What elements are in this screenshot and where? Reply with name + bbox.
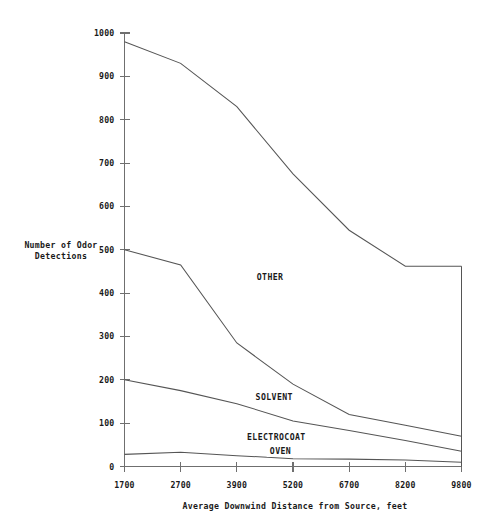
y-axis-tick-label: 400 [99, 288, 114, 298]
series-label-oven: OVEN [270, 446, 291, 456]
x-axis-tick-label: 1700 [114, 480, 135, 490]
y-axis-tick-label: 500 [99, 245, 114, 255]
y-axis-tick-label: 600 [99, 201, 114, 211]
y-axis-tick-label: 100 [99, 418, 114, 428]
y-axis-title-line-1: Number of Odor [24, 240, 97, 250]
x-axis-tick-label: 3900 [227, 480, 248, 490]
x-axis-tick-label: 5200 [283, 480, 304, 490]
y-axis-group: 01002003004005006007008009001000 [94, 28, 130, 472]
series-line-other [125, 42, 462, 267]
x-axis-title: Average Downwind Distance from Source, f… [183, 501, 408, 511]
series-labels-group: OTHERSOLVENTELECTROCOATOVEN [244, 272, 309, 457]
y-axis-tick-label: 0 [109, 462, 114, 472]
x-axis-tick-label: 9800 [451, 480, 472, 490]
series-label-other: OTHER [257, 272, 284, 282]
y-axis-tick-label: 1000 [94, 28, 115, 38]
x-axis-tick-label: 2700 [170, 480, 191, 490]
x-axis-tick-label: 6700 [339, 480, 360, 490]
y-axis-tick-label: 200 [99, 375, 114, 385]
y-axis-title-line-2: Detections [35, 251, 87, 261]
y-axis-tick-label: 900 [99, 71, 114, 81]
series-line-solvent [125, 250, 462, 436]
chart-canvas: 01002003004005006007008009001000 1700270… [0, 0, 496, 529]
x-axis-tick-labels: 1700270039005200670082009800 [114, 480, 472, 490]
x-axis-tick-label: 8200 [395, 480, 416, 490]
y-axis-tick-label: 700 [99, 158, 114, 168]
series-label-solvent: SOLVENT [256, 392, 293, 402]
series-label-electrocoat: ELECTROCOAT [247, 432, 306, 442]
odor-detections-chart: 01002003004005006007008009001000 1700270… [0, 0, 496, 529]
y-axis-tick-label: 800 [99, 115, 114, 125]
y-axis-tick-label: 300 [99, 331, 114, 341]
x-axis-group: 1700270039005200670082009800 [114, 462, 472, 490]
